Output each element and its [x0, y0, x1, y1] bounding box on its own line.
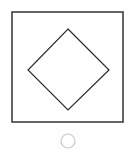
- figure-canvas: [0, 0, 136, 160]
- diamond-shape: [28, 29, 109, 110]
- radio-button-circle[interactable]: [61, 134, 75, 148]
